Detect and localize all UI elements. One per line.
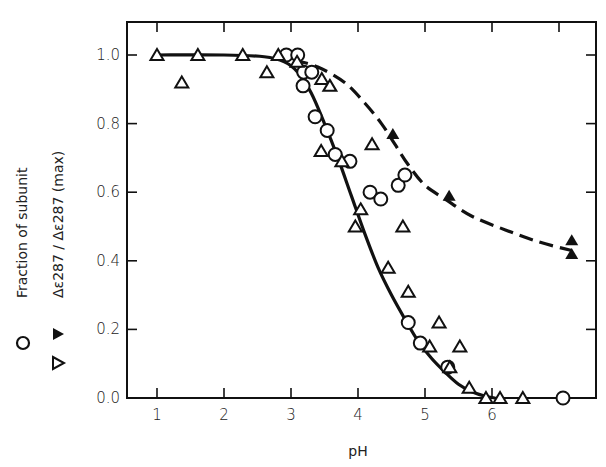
open-circle-marker [305, 66, 318, 79]
y-tick-label: 0.6 [96, 183, 120, 201]
y-tick-label: 1.0 [96, 46, 120, 64]
open-triangle-marker [402, 286, 415, 297]
x-tick-label: 5 [420, 406, 430, 424]
filled-triangle-marker [386, 128, 399, 139]
open-triangle-marker [396, 221, 409, 232]
y-axis-label-primary: Fraction of subunit [14, 167, 30, 298]
open-circle-marker [297, 79, 310, 92]
filled-triangle-marker [565, 234, 578, 245]
y-tick-label: 0.8 [96, 115, 120, 133]
open-triangle-marker [453, 341, 466, 352]
solid-fit-curve [157, 55, 495, 398]
open-triangle-marker [260, 66, 273, 77]
y-axis-label: Fraction of subunit Δε287 / Δε287 (max) [14, 151, 66, 298]
legend-open-triangle-icon [53, 357, 64, 369]
open-triangle-marker [175, 76, 188, 87]
open-circle-marker [309, 110, 322, 123]
x-tick-label: 1 [152, 406, 162, 424]
legend-filled-triangle-icon [53, 328, 64, 340]
y-tick-label: 0.2 [96, 320, 120, 338]
x-tick-label: 2 [219, 406, 229, 424]
y-tick-label: 0.4 [96, 252, 120, 270]
open-triangle-marker [433, 317, 446, 328]
axis-tick-labels: 1234560.00.20.40.60.81.0 [96, 46, 497, 424]
open-circle-marker [402, 316, 415, 329]
legend-markers [17, 328, 64, 369]
open-circle-marker [557, 392, 570, 405]
x-tick-label: 3 [286, 406, 296, 424]
x-axis-label: pH [348, 443, 367, 459]
x-tick-label: 4 [353, 406, 363, 424]
open-triangle-marker [366, 138, 379, 149]
x-tick-label: 6 [487, 406, 497, 424]
chart: 1234560.00.20.40.60.81.0 pH Fraction of … [0, 0, 606, 467]
fitted-curves [157, 55, 589, 398]
open-triangle-marker [382, 262, 395, 273]
y-tick-label: 0.0 [96, 389, 120, 407]
open-circle-marker [321, 124, 334, 137]
open-triangle-marker [315, 145, 328, 156]
legend-open-circle-icon [17, 337, 29, 349]
data-markers [151, 49, 579, 405]
filled-triangle-marker [443, 190, 456, 201]
open-circle-marker [398, 169, 411, 182]
y-axis-label-secondary: Δε287 / Δε287 (max) [50, 151, 66, 298]
open-circle-marker [374, 193, 387, 206]
